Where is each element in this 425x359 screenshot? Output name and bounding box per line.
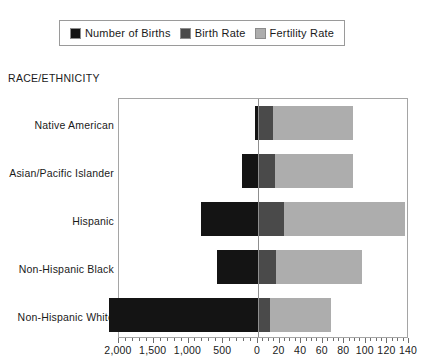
x-axis-label-births-1000: 1,000 — [174, 344, 201, 356]
bar-segment-births — [217, 250, 258, 284]
tick-births-1500 — [153, 338, 154, 343]
bar-segment-birth-rate — [258, 250, 276, 284]
x-axis-label-rate-20: 20 — [273, 344, 285, 356]
tick-births-800 — [201, 338, 202, 341]
bar-segment-birth-rate — [258, 202, 284, 236]
x-axis-label-rate-80: 80 — [337, 344, 349, 356]
bar-group-non-hispanic-black — [119, 243, 407, 291]
chart-plot-area — [118, 98, 408, 338]
tick-rate-30 — [289, 338, 290, 341]
x-axis-label-rate-40: 40 — [294, 344, 306, 356]
tick-births-400 — [229, 338, 230, 341]
tick-births-1400 — [160, 338, 161, 341]
category-label-text: Hispanic — [72, 215, 114, 227]
tick-rate-70 — [333, 338, 334, 341]
tick-rate-60 — [322, 338, 323, 343]
tick-rate-120 — [386, 338, 387, 343]
tick-births-100 — [250, 338, 251, 341]
bar-segment-births — [242, 154, 258, 188]
legend-item-fertility-rate: Fertility Rate — [255, 27, 335, 39]
x-axis-label-births-500: 500 — [213, 344, 231, 356]
category-label-text: Non-Hispanic White — [18, 311, 114, 323]
tick-births-1800 — [132, 338, 133, 341]
x-axis-label-rate-120: 120 — [377, 344, 395, 356]
tick-rate-85 — [349, 338, 350, 341]
x-axis-label-rate-100: 100 — [356, 344, 374, 356]
legend-swatch-fertility-rate — [255, 28, 266, 39]
tick-births-1100 — [181, 338, 182, 341]
tick-rate-5 — [262, 338, 263, 341]
bar-segment-fertility-rate — [275, 154, 353, 188]
tick-rate-90 — [354, 338, 355, 341]
tick-rate-20 — [279, 338, 280, 343]
tick-rate-45 — [306, 338, 307, 341]
tick-rate-25 — [284, 338, 285, 341]
tick-rate-125 — [392, 338, 393, 341]
bar-segment-birth-rate — [258, 154, 275, 188]
x-axis-label-rate-60: 60 — [316, 344, 328, 356]
bar-segment-birth-rate — [258, 298, 270, 332]
category-label-non-hispanic-black: Non-Hispanic Black — [0, 259, 114, 277]
zero-axis-line — [258, 99, 259, 337]
tick-rate-80 — [343, 338, 344, 343]
tick-births-700 — [208, 338, 209, 341]
tick-rate-35 — [295, 338, 296, 341]
x-axis-label-rate-140: 140 — [399, 344, 417, 356]
bar-group-non-hispanic-white — [119, 291, 407, 339]
tick-rate-75 — [338, 338, 339, 341]
tick-births-1000 — [188, 338, 189, 343]
legend-swatch-birth-rate — [180, 28, 191, 39]
chart-legend: Number of Births Birth Rate Fertility Ra… — [59, 20, 345, 46]
bar-segment-fertility-rate — [284, 202, 405, 236]
bar-group-native-american — [119, 99, 407, 147]
legend-item-births: Number of Births — [70, 27, 171, 39]
tick-rate-50 — [311, 338, 312, 341]
bar-group-asian-pacific-islander — [119, 147, 407, 195]
category-label-native-american: Native American — [0, 115, 114, 133]
tick-births-200 — [243, 338, 244, 341]
tick-rate-40 — [300, 338, 301, 343]
tick-births-1300 — [167, 338, 168, 341]
x-axis-label-births-2000: 2,000 — [104, 344, 131, 356]
bar-segment-fertility-rate — [276, 250, 361, 284]
tick-rate-15 — [273, 338, 274, 341]
x-axis-label-births-0: 0 — [254, 344, 260, 356]
x-axis-ticks — [118, 338, 408, 343]
tick-births-1900 — [125, 338, 126, 341]
tick-births-600 — [215, 338, 216, 341]
legend-label-fertility-rate: Fertility Rate — [270, 27, 335, 39]
category-label-asian-pacific-islander: Asian/Pacific Islander — [0, 163, 114, 181]
tick-rate-65 — [327, 338, 328, 341]
tick-births-900 — [194, 338, 195, 341]
category-label-hispanic: Hispanic — [0, 211, 114, 229]
tick-births-300 — [236, 338, 237, 341]
tick-rate-0 — [257, 338, 258, 343]
bar-segment-birth-rate — [258, 106, 273, 140]
x-axis-label-births-1500: 1,500 — [139, 344, 166, 356]
tick-births-500 — [222, 338, 223, 343]
bar-segment-fertility-rate — [270, 298, 331, 332]
tick-rate-110 — [376, 338, 377, 341]
legend-label-births: Number of Births — [85, 27, 171, 39]
tick-rate-115 — [381, 338, 382, 341]
y-axis-title: RACE/ETHNICITY — [8, 72, 100, 84]
tick-rate-55 — [316, 338, 317, 341]
tick-rate-105 — [370, 338, 371, 341]
category-label-text: Non-Hispanic Black — [19, 263, 114, 275]
category-label-non-hispanic-white: Non-Hispanic White — [0, 307, 114, 325]
bar-segment-births — [201, 202, 258, 236]
bar-segment-births — [109, 298, 258, 332]
bar-group-hispanic — [119, 195, 407, 243]
tick-births-2000 — [118, 338, 119, 343]
bar-segment-fertility-rate — [273, 106, 353, 140]
legend-item-birth-rate: Birth Rate — [180, 27, 246, 39]
tick-births-1200 — [174, 338, 175, 341]
tick-births-1600 — [146, 338, 147, 341]
tick-rate-130 — [397, 338, 398, 341]
category-label-text: Native American — [35, 119, 114, 131]
tick-rate-95 — [359, 338, 360, 341]
tick-rate-135 — [403, 338, 404, 341]
tick-rate-100 — [365, 338, 366, 343]
x-axis-labels: 2,0001,5001,000500020406080100120140 — [0, 344, 425, 358]
tick-rate-10 — [268, 338, 269, 341]
